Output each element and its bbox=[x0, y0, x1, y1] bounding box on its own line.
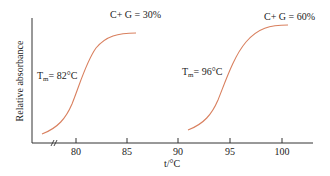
x-tick-label: 80 bbox=[71, 146, 81, 157]
melting-curve-60 bbox=[188, 25, 288, 130]
melting-curve-30 bbox=[42, 33, 136, 134]
tm-annotation-82: Tm= 82°C bbox=[37, 70, 78, 83]
svg-text:Tm= 96°C: Tm= 96°C bbox=[182, 66, 223, 79]
x-axis-label: t/°C bbox=[164, 158, 181, 169]
x-ticks bbox=[76, 138, 282, 143]
series-label-60: C+ G = 60% bbox=[264, 11, 315, 22]
x-tick-label: 100 bbox=[275, 146, 290, 157]
series-label-30: C+ G = 30% bbox=[110, 9, 161, 20]
y-axis-label: Relative absorbance bbox=[14, 40, 25, 121]
melting-curve-chart: 80 85 90 95 100 t/°C Relative absorbance… bbox=[0, 0, 330, 176]
svg-text:Tm= 82°C: Tm= 82°C bbox=[37, 70, 78, 83]
x-tick-label: 95 bbox=[225, 146, 235, 157]
x-tick-label: 85 bbox=[122, 146, 132, 157]
tm-annotation-96: Tm= 96°C bbox=[182, 66, 223, 79]
x-tick-label: 90 bbox=[173, 146, 183, 157]
